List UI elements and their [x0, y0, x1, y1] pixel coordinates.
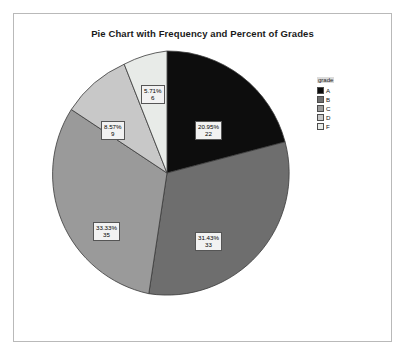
legend-label-b: B	[326, 96, 330, 103]
slice-label-d: 8.57% 9	[101, 121, 125, 140]
legend-swatch-a-icon	[317, 87, 324, 94]
slice-label-f-count: 6	[144, 94, 162, 101]
chart-frame: Pie Chart with Frequency and Percent of …	[13, 13, 392, 342]
legend-swatch-b-icon	[317, 96, 324, 103]
slice-label-b: 31.43% 33	[195, 232, 222, 251]
legend-item-c[interactable]: C	[317, 104, 359, 113]
legend-label-c: C	[326, 105, 330, 112]
legend-item-a[interactable]: A	[317, 86, 359, 95]
legend: grade A B C D F	[317, 68, 359, 131]
legend-swatch-f-icon	[317, 123, 324, 130]
slice-label-c-count: 35	[96, 231, 117, 238]
pie-svg	[43, 49, 291, 297]
slice-label-b-count: 33	[198, 241, 219, 248]
legend-label-a: A	[326, 87, 330, 94]
legend-title: grade	[317, 77, 334, 83]
legend-swatch-d-icon	[317, 114, 324, 121]
legend-item-d[interactable]: D	[317, 113, 359, 122]
legend-item-b[interactable]: B	[317, 95, 359, 104]
slice-label-b-percent: 31.43%	[198, 234, 219, 241]
slice-label-a-count: 22	[198, 130, 219, 137]
legend-item-f[interactable]: F	[317, 122, 359, 131]
slice-label-d-percent: 8.57%	[104, 123, 122, 130]
legend-label-f: F	[326, 123, 330, 130]
slice-label-c: 33.33% 35	[93, 222, 120, 241]
chart-title: Pie Chart with Frequency and Percent of …	[14, 28, 391, 39]
slice-label-a-percent: 20.95%	[198, 123, 219, 130]
legend-label-d: D	[326, 114, 330, 121]
slice-label-c-percent: 33.33%	[96, 224, 117, 231]
legend-swatch-c-icon	[317, 105, 324, 112]
slice-label-d-count: 9	[104, 130, 122, 137]
slice-label-f-percent: 5.71%	[144, 87, 162, 94]
slice-label-f: 5.71% 6	[141, 85, 165, 104]
slice-label-a: 20.95% 22	[195, 121, 222, 140]
pie-chart: 20.95% 22 31.43% 33 33.33% 35 8.57% 9 5.…	[43, 49, 291, 297]
